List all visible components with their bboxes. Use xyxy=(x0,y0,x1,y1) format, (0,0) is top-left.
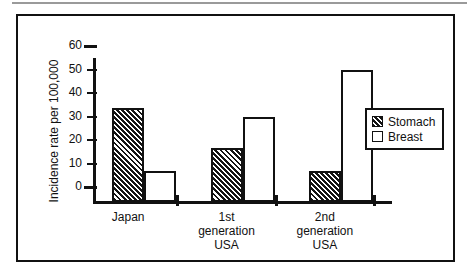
legend-label: Breast xyxy=(388,131,423,143)
x-axis-group-label-line: generation xyxy=(256,224,394,238)
x-axis-group-label-line: 2nd xyxy=(256,210,394,224)
y-axis-tick-label: 40 xyxy=(58,86,82,98)
bar-breast xyxy=(144,171,176,202)
legend-label: Stomach xyxy=(388,116,435,128)
x-axis-group-label-line: USA xyxy=(256,238,394,252)
y-axis-tick-label: 30 xyxy=(58,110,82,122)
legend-item: Breast xyxy=(372,129,435,144)
y-axis-tick-label: 0 xyxy=(58,180,82,192)
legend-item: Stomach xyxy=(372,114,435,129)
legend-swatch-breast xyxy=(372,131,383,142)
y-axis-tick-label: 50 xyxy=(58,63,82,75)
bar-breast xyxy=(243,117,275,202)
bar-stomach xyxy=(112,108,144,202)
legend-swatch-stomach xyxy=(372,116,383,127)
y-axis-tick-labels: 6050403020100 xyxy=(56,16,82,278)
plot-area xyxy=(95,60,390,202)
x-axis-group-label: 2ndgenerationUSA xyxy=(256,210,394,252)
page-top-rule xyxy=(12,2,467,4)
y-axis-tick-label: 20 xyxy=(58,133,82,145)
y-axis-tick xyxy=(84,45,97,48)
bar-stomach xyxy=(309,171,341,202)
bar-stomach xyxy=(211,148,243,202)
y-axis-tick-label: 10 xyxy=(58,157,82,169)
legend: StomachBreast xyxy=(365,108,444,150)
y-axis-tick-label: 60 xyxy=(58,39,82,51)
figure-frame: Incidence rate per 100,000 6050403020100… xyxy=(16,14,455,262)
